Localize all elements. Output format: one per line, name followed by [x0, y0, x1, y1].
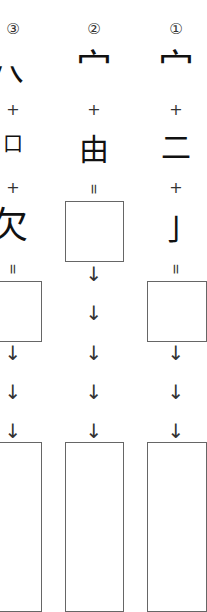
answer-box-tall[interactable]: [147, 442, 207, 612]
down-arrow-icon: ↓: [86, 421, 103, 441]
answer-box-tall[interactable]: [0, 442, 42, 612]
plus-operator: +: [6, 180, 19, 196]
answer-box-tall[interactable]: [65, 442, 124, 612]
middle-component-glyph: 口: [3, 134, 23, 154]
middle-component-glyph: 由: [79, 135, 109, 165]
equals-operator: =: [6, 263, 20, 275]
equals-operator: =: [87, 183, 101, 195]
answer-box-small[interactable]: [65, 201, 124, 262]
down-arrow-icon: ↓: [86, 382, 103, 402]
down-arrow-icon: ↓: [168, 343, 185, 363]
plus-operator: +: [169, 180, 182, 196]
down-arrow-icon: ↓: [5, 382, 22, 402]
down-arrow-icon: ↓: [86, 264, 103, 284]
circled-number-1: ①: [169, 22, 182, 37]
plus-operator: +: [169, 102, 182, 118]
down-arrow-icon: ↓: [86, 343, 103, 363]
down-arrow-icon: ↓: [168, 421, 185, 441]
down-arrow-icon: ↓: [168, 382, 185, 402]
bottom-component-glyph: 欠: [0, 208, 28, 244]
plus-operator: +: [87, 102, 100, 118]
down-arrow-icon: ↓: [5, 343, 22, 363]
down-arrow-icon: ↓: [86, 303, 103, 323]
answer-box-small[interactable]: [0, 281, 42, 342]
answer-box-small[interactable]: [147, 281, 207, 342]
plus-operator: +: [6, 102, 19, 118]
top-radical-glyph: 宀: [158, 50, 194, 86]
circled-number-3: ③: [6, 22, 19, 37]
bottom-component-glyph: 亅: [161, 215, 191, 245]
down-arrow-icon: ↓: [5, 421, 22, 441]
circled-number-2: ②: [87, 22, 100, 37]
top-radical-glyph: 穴: [0, 50, 24, 86]
top-radical-glyph: 宀: [76, 50, 112, 86]
equals-operator: =: [169, 263, 183, 275]
middle-component-glyph: 二: [161, 133, 191, 163]
